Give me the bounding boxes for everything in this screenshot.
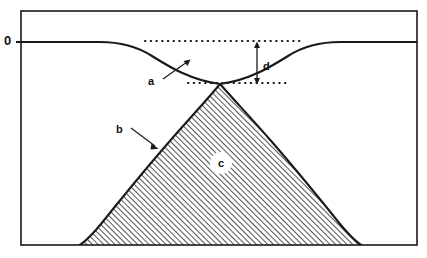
axis-label-zero: 0 [4,34,11,47]
diagram-canvas [0,0,427,258]
figure-container: 0 a b c d [0,0,427,258]
curve-label-a: a [148,76,154,87]
leader-arrow-a [163,60,191,80]
leader-arrow-b [131,128,159,150]
curve-label-b: b [116,124,123,135]
measure-arrow-d [254,42,260,85]
measure-label-d: d [263,61,270,72]
region-label-c: c [210,152,232,174]
